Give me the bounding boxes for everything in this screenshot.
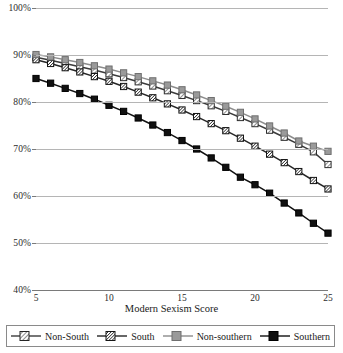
- data-point: [62, 65, 68, 71]
- y-tick-mark: [32, 8, 36, 9]
- data-point: [281, 160, 287, 166]
- y-tick-label: 80%: [13, 97, 31, 107]
- data-point: [179, 87, 185, 93]
- data-point: [135, 115, 141, 121]
- data-point: [194, 92, 200, 98]
- legend-swatch-southern: [260, 330, 290, 342]
- plot-area: [36, 8, 328, 290]
- data-point: [325, 161, 331, 167]
- grid-line: [36, 196, 328, 197]
- y-tick-mark: [32, 243, 36, 244]
- data-point: [62, 85, 68, 91]
- data-point: [281, 130, 287, 136]
- data-point: [208, 155, 214, 161]
- x-axis-line: [36, 290, 328, 291]
- x-tick-label: 10: [104, 293, 114, 303]
- data-point: [106, 102, 112, 108]
- data-point: [164, 82, 170, 88]
- data-point: [223, 128, 229, 134]
- data-point: [91, 74, 97, 80]
- data-point: [296, 210, 302, 216]
- x-tick-label: 25: [323, 293, 333, 303]
- grid-line: [36, 55, 328, 56]
- x-axis-title: Modern Sexism Score: [0, 303, 343, 314]
- data-point: [296, 138, 302, 144]
- y-tick-label: 60%: [13, 191, 31, 201]
- data-point: [194, 113, 200, 119]
- series-line: [36, 60, 328, 189]
- data-point: [237, 174, 243, 180]
- series-southern: [33, 75, 331, 236]
- data-point: [310, 177, 316, 183]
- y-tick-mark: [32, 102, 36, 103]
- data-point: [237, 109, 243, 115]
- y-tick-label: 100%: [8, 3, 31, 13]
- data-point: [237, 135, 243, 141]
- legend-label: Southern: [292, 331, 330, 342]
- data-point: [77, 59, 83, 65]
- y-tick-mark: [32, 196, 36, 197]
- data-point: [252, 116, 258, 122]
- series-south: [33, 57, 331, 192]
- data-point: [48, 80, 54, 86]
- grid-line: [36, 8, 328, 9]
- data-point: [33, 75, 39, 81]
- legend-label: Non-southern: [195, 331, 252, 342]
- data-point: [48, 60, 54, 66]
- legend-item[interactable]: Non-southern: [163, 330, 252, 342]
- legend-label: Non-South: [43, 331, 89, 342]
- grid-line: [36, 243, 328, 244]
- data-point: [281, 200, 287, 206]
- grid-line: [36, 102, 328, 103]
- legend-item[interactable]: South: [97, 330, 154, 342]
- y-tick-label: 90%: [13, 50, 31, 60]
- data-point: [223, 103, 229, 109]
- data-point: [325, 230, 331, 236]
- y-tick-mark: [32, 290, 36, 291]
- chart-legend: Non-South South Non-southern Southern: [6, 325, 335, 347]
- legend-label: South: [129, 331, 154, 342]
- y-tick-label: 50%: [13, 238, 31, 248]
- data-point: [135, 74, 141, 80]
- data-point: [208, 121, 214, 127]
- legend-swatch-non-south: [11, 330, 41, 342]
- data-point: [121, 83, 127, 89]
- data-point: [91, 63, 97, 69]
- data-point: [150, 95, 156, 101]
- y-tick-mark: [32, 55, 36, 56]
- y-tick-mark: [32, 149, 36, 150]
- data-point: [164, 129, 170, 135]
- data-point: [252, 182, 258, 188]
- data-point: [106, 78, 112, 84]
- data-point: [267, 151, 273, 157]
- data-point: [325, 186, 331, 192]
- legend-item[interactable]: Southern: [260, 330, 330, 342]
- y-tick-label: 40%: [13, 285, 31, 295]
- chart-container: 40%50%60%70%80%90%100%510152025 Modern S…: [0, 0, 343, 353]
- y-tick-label: 70%: [13, 144, 31, 154]
- data-point: [179, 137, 185, 143]
- data-point: [135, 89, 141, 95]
- data-point: [106, 66, 112, 72]
- data-point: [296, 168, 302, 174]
- data-point: [179, 107, 185, 113]
- data-point: [310, 220, 316, 226]
- data-point: [223, 164, 229, 170]
- legend-swatch-south: [97, 330, 127, 342]
- legend-swatch-non-southern: [163, 330, 193, 342]
- data-point: [77, 69, 83, 75]
- data-point: [267, 123, 273, 129]
- data-point: [77, 90, 83, 96]
- data-point: [62, 57, 68, 63]
- x-tick-label: 5: [34, 293, 39, 303]
- data-point: [150, 78, 156, 84]
- data-point: [121, 70, 127, 76]
- data-point: [150, 122, 156, 128]
- data-point: [121, 108, 127, 114]
- legend-item[interactable]: Non-South: [11, 330, 89, 342]
- x-tick-label: 20: [250, 293, 260, 303]
- x-tick-label: 15: [177, 293, 187, 303]
- grid-line: [36, 149, 328, 150]
